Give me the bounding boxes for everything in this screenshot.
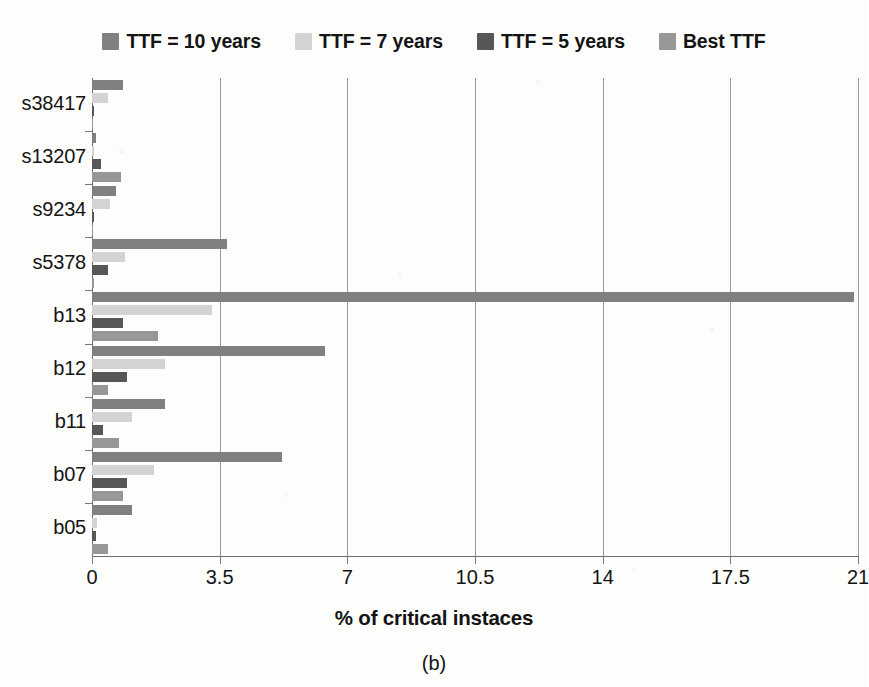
x-axis-tick-label: 17.5: [711, 566, 750, 589]
x-axis-tick: [858, 556, 859, 564]
bar-group: [92, 290, 858, 343]
legend-label: Best TTF: [683, 30, 766, 53]
figure-caption: (b): [0, 652, 868, 675]
y-axis-tick: [85, 450, 93, 451]
bar-group: [92, 450, 858, 503]
bar[interactable]: [92, 133, 96, 143]
bar[interactable]: [92, 172, 121, 182]
bar[interactable]: [92, 93, 108, 103]
legend-label: TTF = 7 years: [319, 30, 443, 53]
bar[interactable]: [92, 518, 97, 528]
x-axis-tick: [603, 556, 604, 564]
y-axis-label: b11: [0, 410, 86, 433]
legend-swatch-icon: [477, 33, 494, 50]
y-axis-label: b13: [0, 304, 86, 327]
bar[interactable]: [92, 106, 94, 116]
y-axis-label: b05: [0, 516, 86, 539]
x-axis-tick-label: 10.5: [456, 566, 495, 589]
x-axis-tick: [220, 556, 221, 564]
bar-group: [92, 503, 858, 556]
bar[interactable]: [92, 412, 132, 422]
bar[interactable]: [92, 119, 93, 129]
y-axis-tick: [85, 344, 93, 345]
bar[interactable]: [92, 438, 119, 448]
bar[interactable]: [92, 159, 101, 169]
y-axis-label: b12: [0, 357, 86, 380]
bar-group: [92, 131, 858, 184]
legend-swatch-icon: [102, 33, 119, 50]
chart-legend: TTF = 10 yearsTTF = 7 yearsTTF = 5 years…: [0, 26, 868, 56]
y-axis-labels: s38417s13207s9234s5378b13b12b11b07b05: [0, 78, 86, 556]
legend-entry[interactable]: Best TTF: [659, 30, 766, 53]
bar-group: [92, 237, 858, 290]
bar[interactable]: [92, 399, 165, 409]
x-axis-tick-label: 14: [592, 566, 614, 589]
legend-entry[interactable]: TTF = 5 years: [477, 30, 625, 53]
x-axis-tick: [730, 556, 731, 564]
bar[interactable]: [92, 465, 154, 475]
y-axis-label: s5378: [0, 251, 86, 274]
x-axis-tick: [347, 556, 348, 564]
bar[interactable]: [92, 292, 854, 302]
y-axis-label: b07: [0, 463, 86, 486]
bar[interactable]: [92, 452, 282, 462]
bar[interactable]: [92, 252, 125, 262]
bar[interactable]: [92, 491, 123, 501]
y-axis-tick: [85, 131, 93, 132]
y-axis-label: s13207: [0, 145, 86, 168]
legend-label: TTF = 10 years: [126, 30, 261, 53]
bar[interactable]: [92, 199, 110, 209]
gridline: [858, 78, 859, 556]
x-axis-tick-label: 7: [342, 566, 353, 589]
plot-area: [92, 78, 858, 556]
bar[interactable]: [92, 318, 123, 328]
bar[interactable]: [92, 265, 108, 275]
bar[interactable]: [92, 239, 227, 249]
bar[interactable]: [92, 505, 132, 515]
y-axis-tick: [85, 184, 93, 185]
legend-swatch-icon: [659, 33, 676, 50]
y-axis-tick: [85, 237, 93, 238]
legend-label: TTF = 5 years: [501, 30, 625, 53]
bar[interactable]: [92, 531, 96, 541]
bar[interactable]: [92, 80, 123, 90]
bar[interactable]: [92, 544, 108, 554]
x-axis-tick-label: 21: [847, 566, 869, 589]
bar[interactable]: [92, 478, 127, 488]
bar[interactable]: [92, 186, 116, 196]
bar[interactable]: [92, 385, 108, 395]
y-axis-label: s9234: [0, 198, 86, 221]
bar-group: [92, 397, 858, 450]
bar[interactable]: [92, 225, 93, 235]
y-axis-tick: [85, 503, 93, 504]
bar[interactable]: [92, 425, 103, 435]
y-axis-label: s38417: [0, 92, 86, 115]
x-axis-tick: [92, 556, 93, 564]
bar[interactable]: [92, 372, 127, 382]
bar[interactable]: [92, 346, 325, 356]
bar-group: [92, 184, 858, 237]
y-axis-tick: [85, 290, 93, 291]
bar[interactable]: [92, 305, 212, 315]
x-axis-title: % of critical instaces: [0, 606, 868, 630]
x-axis-tick-label: 3.5: [206, 566, 234, 589]
bar-group: [92, 344, 858, 397]
legend-swatch-icon: [295, 33, 312, 50]
legend-entry[interactable]: TTF = 10 years: [102, 30, 261, 53]
bar[interactable]: [92, 146, 94, 156]
bar-group: [92, 78, 858, 131]
bar[interactable]: [92, 212, 94, 222]
legend-entry[interactable]: TTF = 7 years: [295, 30, 443, 53]
bar[interactable]: [92, 359, 165, 369]
x-axis-tick-label: 0: [86, 566, 97, 589]
bar[interactable]: [92, 331, 158, 341]
x-axis-tick: [475, 556, 476, 564]
bar[interactable]: [92, 278, 94, 288]
y-axis-tick: [85, 397, 93, 398]
